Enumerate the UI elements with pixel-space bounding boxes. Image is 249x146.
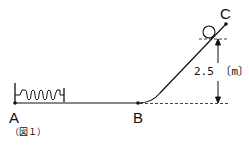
- point-b-dot: [136, 101, 140, 105]
- ball: [203, 26, 215, 38]
- figure-caption: （図１）: [10, 128, 46, 137]
- label-b: B: [133, 110, 143, 125]
- point-c-dot: [224, 22, 228, 26]
- label-c: C: [220, 6, 231, 21]
- height-label: 2.5 〔m〕: [194, 66, 249, 77]
- spring: [15, 88, 64, 102]
- label-a: A: [9, 110, 19, 125]
- point-a-dot: [13, 101, 17, 105]
- physics-diagram: A B C 2.5 〔m〕 （図１）: [0, 0, 249, 146]
